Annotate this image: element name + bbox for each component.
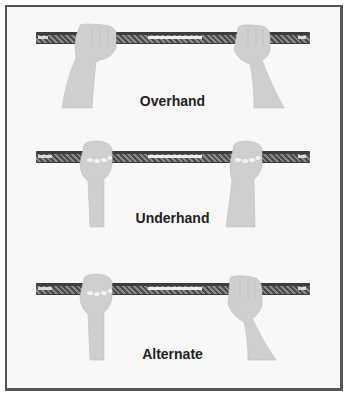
grip-label: Alternate xyxy=(0,346,345,362)
hands-illustration xyxy=(0,260,345,395)
panel-overhand: Overhand xyxy=(0,0,345,125)
grip-label: Overhand xyxy=(0,93,345,109)
hands-illustration xyxy=(0,125,345,250)
panel-alternate: Alternate xyxy=(0,260,345,385)
panel-underhand: Underhand xyxy=(0,125,345,250)
grip-label: Underhand xyxy=(0,210,345,226)
